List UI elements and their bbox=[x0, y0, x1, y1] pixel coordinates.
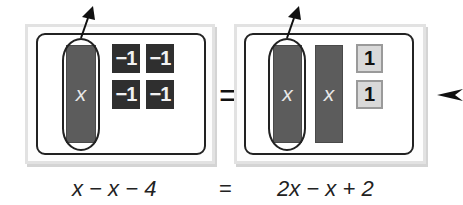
equation-left: x − x − 4 bbox=[72, 176, 156, 202]
equation-equals-text: = bbox=[219, 176, 232, 201]
arrow-up-right-icon bbox=[81, 6, 95, 38]
arrow-up-right-icon bbox=[287, 6, 301, 38]
equation-left-text: x − x − 4 bbox=[72, 176, 156, 201]
arrows-layer bbox=[0, 0, 463, 205]
arrow-left-icon bbox=[437, 89, 463, 101]
equation-right-text: 2x − x + 2 bbox=[277, 176, 374, 201]
equation-equals: = bbox=[219, 176, 232, 202]
equation-right: 2x − x + 2 bbox=[277, 176, 374, 202]
